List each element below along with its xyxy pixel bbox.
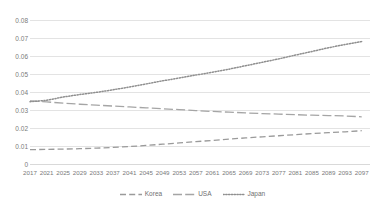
x-axis-tick-label: 2017 (23, 168, 37, 177)
x-axis-tick-label: 2085 (305, 168, 319, 177)
line-chart: 0.080.070.060.050.040.030.020.010 201720… (0, 0, 385, 205)
legend-label: Korea (145, 190, 162, 198)
legend-label: USA (198, 190, 211, 198)
x-axis-tick-label: 2021 (40, 168, 54, 177)
x-axis-tick-label: 2041 (123, 168, 137, 177)
x-axis-tick-label: 2073 (255, 168, 269, 177)
x-axis-tick-label: 2097 (355, 168, 369, 177)
series-line-usa (30, 101, 362, 117)
legend-item-usa[interactable]: USA (173, 190, 211, 198)
x-axis-tick-label: 2065 (222, 168, 236, 177)
x-axis-tick-label: 2053 (172, 168, 186, 177)
x-axis-tick-label: 2025 (56, 168, 70, 177)
long-dash-line-swatch (173, 191, 195, 198)
x-axis-tick-label: 2029 (73, 168, 87, 177)
series-line-korea (30, 131, 362, 150)
x-axis-tick-label: 2077 (272, 168, 286, 177)
chart-legend: KoreaUSAJapan (0, 188, 385, 200)
legend-label: Japan (248, 190, 266, 198)
x-axis-tick-label: 2081 (288, 168, 302, 177)
legend-item-japan[interactable]: Japan (223, 190, 266, 198)
x-axis-tick-label: 2045 (139, 168, 153, 177)
x-axis-tick-label: 2089 (322, 168, 336, 177)
x-axis-tick-label: 2093 (338, 168, 352, 177)
x-axis-labels: 2017202120252029203320372041204520492053… (30, 168, 370, 180)
x-axis-tick-label: 2037 (106, 168, 120, 177)
x-axis-tick-label: 2049 (156, 168, 170, 177)
series-line-japan (30, 42, 362, 102)
x-axis-tick-label: 2033 (89, 168, 103, 177)
dashed-line-swatch (120, 191, 142, 198)
x-axis-tick-label: 2069 (239, 168, 253, 177)
dotted-line-swatch (223, 191, 245, 198)
x-axis-tick-label: 2061 (206, 168, 220, 177)
x-axis-tick-label: 2057 (189, 168, 203, 177)
legend-item-korea[interactable]: Korea (120, 190, 162, 198)
